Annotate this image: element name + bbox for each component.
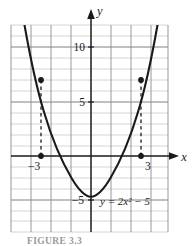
y-tick-label-minus5: −5 [72,194,84,206]
x-axis [11,152,179,160]
x-tick-label-minus3: −3 [28,160,40,172]
curve-equation-label: y = 2x² − 5 [99,195,150,207]
figure-caption: FIGURE 3.3 [27,236,147,246]
figure-container: y x 10 5 −5 −3 3 y = 2x² − 5 FIGURE 3.3 [0,0,193,246]
x-axis-label: x [180,150,187,164]
point-left-axis [38,153,44,159]
x-tick-label-3: 3 [145,160,151,172]
point-left-top [38,77,44,83]
point-right-top [138,77,144,83]
y-axis-arrow [87,9,95,19]
figure-caption-clip: FIGURE 3.3 [27,236,147,246]
y-axis-label: y [95,4,103,18]
y-axis [87,9,95,232]
x-axis-arrow [169,152,179,160]
grid-horizontal-major-lines [11,47,168,200]
parabola-plot: y x 10 5 −5 −3 3 y = 2x² − 5 [0,0,193,246]
point-right-axis [138,153,144,159]
y-tick-label-5: 5 [79,96,85,108]
curve-equation-text: y = 2x² − 5 [99,195,150,207]
y-tick-label-10: 10 [74,41,86,53]
